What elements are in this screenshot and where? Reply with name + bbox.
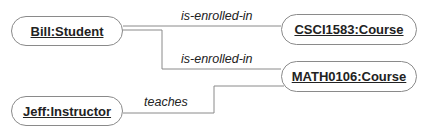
node-csci1583-course[interactable]: CSCI1583:Course (281, 14, 417, 45)
node-jeff-instructor[interactable]: Jeff:Instructor (11, 96, 123, 126)
edge-label-bill-math: is-enrolled-in (181, 52, 253, 66)
node-label: Jeff:Instructor (23, 104, 111, 119)
node-label: CSCI1583:Course (294, 22, 403, 37)
node-label: MATH0106:Course (292, 69, 407, 84)
edge-label-jeff-math: teaches (144, 95, 188, 109)
node-bill-student[interactable]: Bill:Student (11, 16, 123, 46)
edge-label-bill-csci: is-enrolled-in (181, 9, 253, 23)
node-math0106-course[interactable]: MATH0106:Course (281, 61, 417, 92)
node-label: Bill:Student (31, 24, 104, 39)
